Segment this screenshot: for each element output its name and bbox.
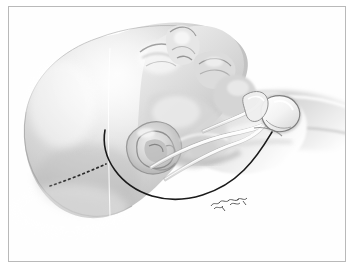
medical-illustration: Infant head in lateral-oblique view with… [0,0,355,272]
nape-hair [211,198,247,211]
illustration-figure: Infant head in lateral-oblique view with… [0,0,355,272]
